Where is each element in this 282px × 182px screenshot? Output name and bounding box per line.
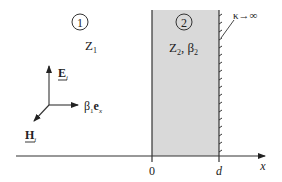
h-field-arrow	[34, 105, 49, 121]
axis-thickness-label: d	[216, 164, 223, 178]
axis-origin-label: 0	[149, 164, 155, 178]
wall-label-leader	[221, 20, 234, 38]
region-2-number: 2	[181, 16, 187, 30]
propagation-label: β1ex	[84, 99, 103, 115]
region-1-number: 1	[77, 16, 83, 30]
region-2-slab	[152, 10, 219, 156]
wall-conductivity-label: κ→∞	[233, 9, 258, 21]
diagram-canvas: 1 Z1 2 Z2, β2 κ→∞ Ei β1ex Hi 0 d x	[0, 0, 282, 182]
region-2-parameters: Z2, β2	[169, 40, 198, 57]
axis-x-label: x	[259, 159, 266, 173]
region-1-impedance: Z1	[85, 38, 97, 55]
